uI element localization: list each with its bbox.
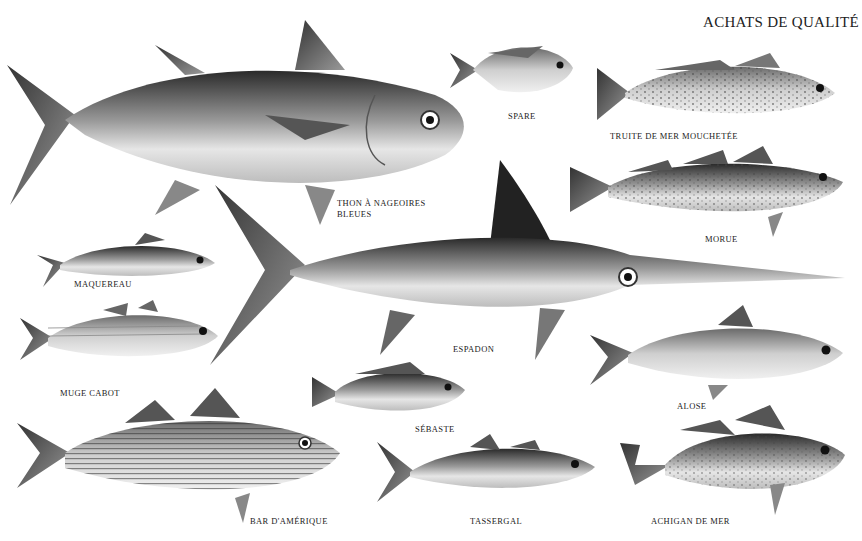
fish-label-truite: TRUITE DE MER MOUCHETÉE — [610, 131, 738, 142]
sea-bream-illustration — [448, 38, 578, 108]
bluefish-illustration — [375, 432, 600, 512]
fish-label-tassergal: TASSERGAL — [470, 516, 522, 527]
plate-title: ACHATS DE QUALITÉ — [703, 14, 859, 31]
spotted-seatrout-illustration — [595, 48, 845, 128]
fish-label-achigan: ACHIGAN DE MER — [651, 516, 730, 527]
fish-label-maquereau: MAQUEREAU — [74, 279, 132, 290]
mullet-illustration — [18, 298, 223, 378]
shad-illustration — [588, 305, 850, 400]
sea-bass-illustration — [620, 405, 850, 515]
fish-label-spare: SPARE — [508, 111, 536, 122]
fish-label-bar: BAR D'AMÉRIQUE — [250, 516, 328, 527]
striped-bass-illustration — [15, 388, 345, 523]
fish-label-espadon: ESPADON — [453, 344, 494, 355]
